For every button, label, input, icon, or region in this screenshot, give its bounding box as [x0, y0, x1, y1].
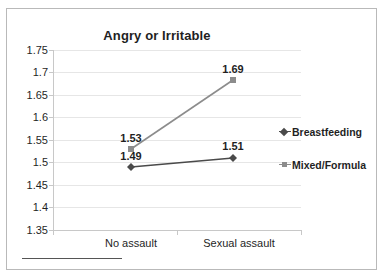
data-label-breastfeeding-sexual-assault: 1.51	[213, 140, 253, 152]
square-marker-icon	[279, 159, 291, 171]
legend-label-breastfeeding: Breastfeeding	[292, 126, 362, 138]
data-point-mixed-formula-sexual-assault	[230, 77, 236, 83]
data-point-breastfeeding-sexual-assault	[229, 154, 237, 162]
legend-item-breastfeeding[interactable]: Breastfeeding	[279, 121, 377, 142]
figure-frame: Angry or Irritable 1.75 1.7 1.65 1.6 1.5…	[6, 8, 377, 270]
data-label-mixed-formula-sexual-assault: 1.69	[213, 63, 253, 75]
footnote-text	[22, 272, 362, 277]
data-label-breastfeeding-no-assault: 1.49	[111, 150, 151, 162]
data-label-mixed-formula-no-assault: 1.53	[111, 132, 151, 144]
data-point-breastfeeding-no-assault	[127, 163, 135, 171]
diamond-marker-icon	[279, 126, 291, 138]
footnote-separator-rule	[22, 258, 122, 259]
chart-legend: Breastfeeding Mixed/Formula	[279, 121, 377, 175]
legend-label-mixed-formula: Mixed/Formula	[292, 159, 366, 171]
legend-item-mixed-formula[interactable]: Mixed/Formula	[279, 154, 377, 175]
